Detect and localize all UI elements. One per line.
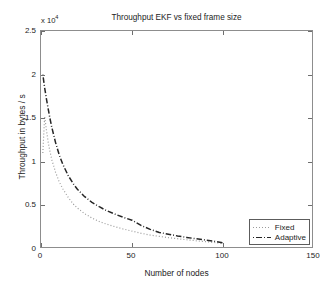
x-tick-mark (132, 31, 133, 35)
series-line-adaptive (43, 75, 223, 243)
legend-label-adaptive: Adaptive (275, 233, 306, 242)
x-tick-mark (223, 243, 224, 247)
legend-item-fixed[interactable]: Fixed (252, 222, 306, 232)
y-tick-mark (308, 162, 312, 163)
x-tick-mark (41, 243, 42, 247)
legend-line-sample-dashdot (252, 233, 272, 242)
x-tick-label: 100 (215, 251, 228, 260)
series-line-fixed (43, 116, 223, 243)
legend: Fixed Adaptive (249, 219, 310, 245)
series-canvas (41, 31, 313, 248)
x-tick-label: 0 (38, 251, 42, 260)
y-tick-mark (308, 118, 312, 119)
legend-label-fixed: Fixed (275, 223, 295, 232)
y-tick-mark (308, 31, 312, 32)
figure-canvas: Throughput EKF vs fixed frame size x 104… (0, 0, 333, 289)
x-tick-mark (223, 31, 224, 35)
y-axis-exponent-prefix: x 10 (41, 16, 55, 25)
x-tick-label: 50 (127, 251, 136, 260)
x-axis-label: Number of nodes (40, 268, 313, 278)
y-tick-mark (41, 31, 45, 32)
legend-line-sample-dotted (252, 223, 272, 232)
x-tick-label: 150 (306, 251, 319, 260)
y-axis-exponent-power: 4 (55, 14, 58, 20)
y-tick-label: 2.5 (0, 26, 36, 35)
y-tick-mark (41, 205, 45, 206)
chart-title: Throughput EKF vs fixed frame size (40, 13, 313, 23)
y-tick-mark (41, 75, 45, 76)
y-tick-mark (41, 162, 45, 163)
y-tick-mark (41, 118, 45, 119)
legend-item-adaptive[interactable]: Adaptive (252, 232, 306, 242)
y-tick-label: 0 (0, 244, 36, 253)
y-tick-mark (308, 75, 312, 76)
y-tick-mark (308, 205, 312, 206)
y-axis-label: Throughput in bytes / s (17, 67, 27, 207)
plot-area: Fixed Adaptive (40, 30, 313, 248)
y-axis-exponent-label: x 104 (41, 16, 58, 25)
x-tick-mark (132, 243, 133, 247)
